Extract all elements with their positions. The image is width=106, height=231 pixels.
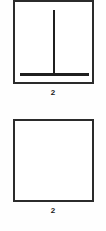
figure-block-2: 2 [0,119,106,217]
tee-vertical-stroke-icon [53,10,55,73]
panel-with-tee-figure[interactable] [13,0,94,84]
tee-horizontal-baseline-icon [20,73,89,76]
figure-sheet: 2 2 [0,0,106,231]
empty-panel[interactable] [13,119,94,202]
panel-1-caption: 2 [0,87,106,99]
figure-block-1: 2 [0,0,106,99]
panel-2-caption: 2 [0,205,106,217]
